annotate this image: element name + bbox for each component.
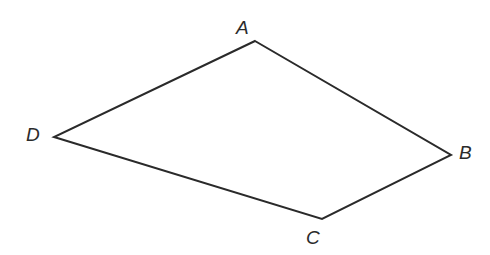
vertex-label-a: A — [236, 18, 249, 37]
vertex-label-c: C — [306, 228, 320, 247]
vertex-label-b: B — [459, 143, 472, 162]
quadrilateral-svg-canvas — [0, 0, 490, 255]
quadrilateral-figure: A B C D — [0, 0, 490, 255]
vertex-label-d: D — [26, 125, 40, 144]
